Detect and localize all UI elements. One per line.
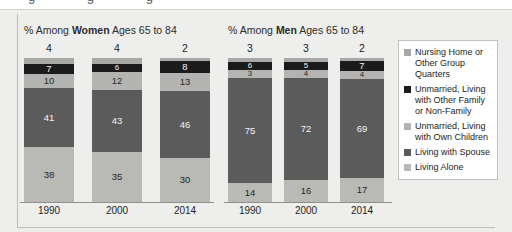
segment-value-label: 17 xyxy=(357,185,368,195)
bar-top-value-label: 2 xyxy=(340,42,384,54)
legend-label: Living Alone xyxy=(415,162,464,173)
stacked-bar: 547216 xyxy=(284,58,328,202)
bar-segment-unmarried-other-family: 7 xyxy=(24,64,74,74)
bar-column: 46124335 xyxy=(92,42,142,202)
segment-value-label: 8 xyxy=(182,62,187,72)
legend-item-unmarried-other-family[interactable]: Unmarried, Living with Other Family or N… xyxy=(404,84,492,117)
bar-column: 3547216 xyxy=(284,42,328,202)
stacked-bar: 6124335 xyxy=(92,58,142,202)
legend-item-unmarried-own-children[interactable]: Unmarried, Living with Own Children xyxy=(404,121,492,143)
x-tick-label: 2014 xyxy=(160,205,210,216)
bar-top-value-label: 2 xyxy=(160,42,210,54)
legend-swatch-icon xyxy=(404,86,411,93)
x-tick-labels-men: 199020002014 xyxy=(228,205,388,219)
legend-label: Unmarried, Living with Own Children xyxy=(415,121,492,143)
bar-segment-unmarried-own-children: 3 xyxy=(228,70,272,78)
bar-segment-unmarried-other-family: 6 xyxy=(92,64,142,73)
segment-value-label: 12 xyxy=(112,76,123,86)
group-title-men-prefix: % Among xyxy=(228,24,276,36)
legend-label: Unmarried, Living with Other Family or N… xyxy=(415,84,492,117)
bar-segment-living-alone: 14 xyxy=(228,183,272,202)
bar-top-value-label: 3 xyxy=(284,42,328,54)
segment-value-label: 43 xyxy=(112,116,123,126)
segment-value-label: 69 xyxy=(357,124,368,134)
legend-swatch-icon xyxy=(404,49,411,56)
legend-label: Living with Spouse xyxy=(415,147,490,158)
legend-item-nursing-home[interactable]: Nursing Home or Other Group Quarters xyxy=(404,47,492,80)
x-tick-label: 1990 xyxy=(24,205,74,216)
segment-value-label: 75 xyxy=(245,126,256,136)
bar-column: 28134630 xyxy=(160,42,210,202)
legend-item-living-with-spouse[interactable]: Living with Spouse xyxy=(404,147,492,158)
bar-segment-living-alone: 16 xyxy=(284,180,328,203)
bar-segment-living-with-spouse: 43 xyxy=(92,90,142,152)
segment-value-label: 41 xyxy=(44,113,55,123)
plot-area-women: 471041384612433528134630 xyxy=(24,42,210,202)
bar-segment-living-with-spouse: 41 xyxy=(24,88,74,147)
bar-segment-unmarried-other-family: 8 xyxy=(160,61,210,73)
legend-label: Nursing Home or Other Group Quarters xyxy=(415,47,492,80)
x-tick-label: 2000 xyxy=(92,205,142,216)
segment-value-label: 7 xyxy=(46,64,51,74)
segment-value-label: 4 xyxy=(360,71,364,79)
bar-segment-unmarried-own-children: 4 xyxy=(284,70,328,78)
cropped-text-strip: g g g xyxy=(0,0,512,9)
group-title-women-bold: Women xyxy=(72,24,110,36)
bar-segment-living-alone: 30 xyxy=(160,158,210,202)
segment-value-label: 10 xyxy=(44,76,55,86)
legend-swatch-icon xyxy=(404,123,411,130)
chart-group-women: % Among Women Ages 65 to 84 471041384612… xyxy=(24,24,210,220)
bar-column: 47104138 xyxy=(24,42,74,202)
plot-area-men: 363751435472162746917 xyxy=(228,42,388,202)
segment-value-label: 6 xyxy=(115,64,119,72)
x-axis-men xyxy=(224,202,392,203)
bar-segment-unmarried-own-children: 13 xyxy=(160,73,210,92)
cropped-text: g g g xyxy=(28,0,177,4)
bar-top-value-label: 4 xyxy=(92,42,142,54)
bar-segment-living-alone: 35 xyxy=(92,152,142,202)
x-axis-women xyxy=(20,202,214,203)
group-title-men-bold: Men xyxy=(276,24,297,36)
segment-value-label: 72 xyxy=(301,124,312,134)
segment-value-label: 30 xyxy=(180,175,191,185)
group-title-women-prefix: % Among xyxy=(24,24,72,36)
stacked-bar: 8134630 xyxy=(160,58,210,202)
bar-column: 2746917 xyxy=(340,42,384,202)
x-tick-label: 1990 xyxy=(228,205,272,216)
bar-top-value-label: 4 xyxy=(24,42,74,54)
segment-value-label: 46 xyxy=(180,120,191,130)
segment-value-label: 13 xyxy=(180,77,191,87)
stacked-bar: 637514 xyxy=(228,58,272,202)
chart-group-men: % Among Men Ages 65 to 84 36375143547216… xyxy=(228,24,388,220)
stacked-bar: 746917 xyxy=(340,58,384,202)
segment-value-label: 35 xyxy=(112,172,123,182)
x-tick-label: 2000 xyxy=(284,205,328,216)
segment-value-label: 4 xyxy=(304,70,308,78)
group-title-women-suffix: Ages 65 to 84 xyxy=(110,24,177,36)
group-title-men-suffix: Ages 65 to 84 xyxy=(297,24,364,36)
segment-value-label: 16 xyxy=(301,186,312,196)
bar-segment-unmarried-own-children: 10 xyxy=(24,74,74,88)
group-title-women: % Among Women Ages 65 to 84 xyxy=(24,24,177,36)
bar-segment-living-with-spouse: 72 xyxy=(284,78,328,179)
stacked-bar: 7104138 xyxy=(24,58,74,202)
bar-segment-living-alone: 38 xyxy=(24,147,74,202)
legend-swatch-icon xyxy=(404,149,411,156)
chart-panel: % Among Women Ages 65 to 84 471041384612… xyxy=(0,9,512,232)
bar-segment-unmarried-own-children: 4 xyxy=(340,71,384,79)
bar-segment-living-with-spouse: 75 xyxy=(228,78,272,182)
group-title-men: % Among Men Ages 65 to 84 xyxy=(228,24,364,36)
bar-segment-living-with-spouse: 69 xyxy=(340,79,384,178)
legend-item-living-alone[interactable]: Living Alone xyxy=(404,162,492,173)
bar-segment-unmarried-own-children: 12 xyxy=(92,72,142,89)
x-tick-labels-women: 199020002014 xyxy=(24,205,210,219)
segment-value-label: 38 xyxy=(44,170,55,180)
legend-swatch-icon xyxy=(404,164,411,171)
segment-value-label: 14 xyxy=(245,188,256,198)
bar-segment-living-alone: 17 xyxy=(340,178,384,202)
x-tick-label: 2014 xyxy=(340,205,384,216)
bar-segment-living-with-spouse: 46 xyxy=(160,91,210,158)
bar-top-value-label: 3 xyxy=(228,42,272,54)
segment-value-label: 3 xyxy=(248,70,252,78)
chart-legend: Nursing Home or Other Group QuartersUnma… xyxy=(398,40,498,180)
